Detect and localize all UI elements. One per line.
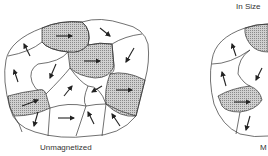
arrow-up-left-icon <box>222 72 226 86</box>
arrow-up-left-icon <box>88 112 94 124</box>
domain-shaded-3 <box>106 73 146 116</box>
arrow-down-left-icon <box>50 64 56 78</box>
arrow-down-left-icon <box>126 48 134 62</box>
arrow-down-left-icon <box>256 68 262 80</box>
domain-shaded-r1 <box>245 24 268 52</box>
arrow-up-right-icon <box>64 86 72 96</box>
arrow-up-left-icon <box>232 44 236 56</box>
domain-shaded-4 <box>8 90 50 117</box>
arrow-up-left-icon <box>112 114 120 126</box>
arrow-down-right-icon <box>100 28 110 36</box>
top-caption-partial: In Size <box>236 2 260 11</box>
arrow-down-left-icon <box>246 116 250 130</box>
magnetized-panel <box>210 24 268 137</box>
unmagnetized-label: Unmagnetized <box>40 143 92 152</box>
magnetic-domains-diagram <box>0 0 268 156</box>
magnetized-label-partial: M <box>260 143 267 152</box>
arrow-down-left-icon <box>34 112 38 126</box>
arrow-up-left-icon <box>14 70 18 82</box>
domain-shaded-r2 <box>218 86 262 112</box>
unmagnetized-panel <box>5 19 149 137</box>
